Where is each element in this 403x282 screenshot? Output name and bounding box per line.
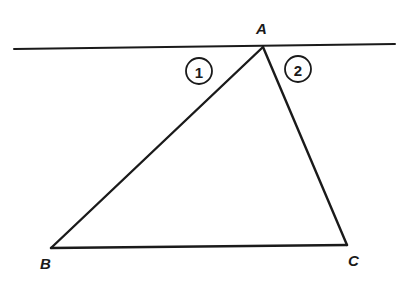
angle-marker-2: 2 xyxy=(285,56,311,82)
angle-marker-1: 1 xyxy=(186,58,212,84)
side-ac xyxy=(263,47,347,245)
angle-1-label: 1 xyxy=(195,64,203,81)
side-ab xyxy=(51,47,263,248)
vertex-label-c: C xyxy=(348,252,360,269)
triangle-diagram: A B C 1 2 xyxy=(0,0,403,282)
parallel-line-through-a xyxy=(14,44,395,49)
vertex-label-a: A xyxy=(255,20,267,37)
side-bc xyxy=(51,245,347,248)
angle-2-label: 2 xyxy=(294,62,302,79)
vertex-label-b: B xyxy=(40,255,51,272)
